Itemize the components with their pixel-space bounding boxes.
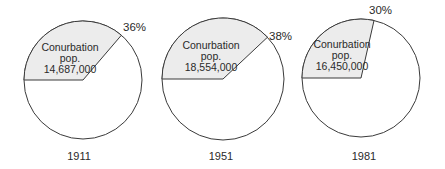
wedge-label-population: 14,687,000 bbox=[44, 63, 97, 75]
wedge-label-population: 18,554,000 bbox=[185, 61, 238, 73]
year-label: 1951 bbox=[209, 150, 233, 162]
pie-chart-1981: Conurbation pop. 16,450,000 30% 1981 bbox=[302, 4, 420, 162]
pie-chart-1951: Conurbation pop. 18,554,000 38% 1951 bbox=[162, 18, 292, 162]
pie-chart-1911: Conurbation pop. 14,687,000 36% 1911 bbox=[24, 21, 146, 162]
percent-label: 36% bbox=[123, 21, 146, 33]
percent-label: 30% bbox=[369, 4, 392, 16]
wedge-label-population: 16,450,000 bbox=[316, 60, 369, 72]
year-label: 1911 bbox=[67, 150, 91, 162]
percent-label: 38% bbox=[269, 30, 292, 42]
year-label: 1981 bbox=[352, 150, 376, 162]
pie-charts-figure: Conurbation pop. 14,687,000 36% 1911 Con… bbox=[0, 0, 445, 169]
